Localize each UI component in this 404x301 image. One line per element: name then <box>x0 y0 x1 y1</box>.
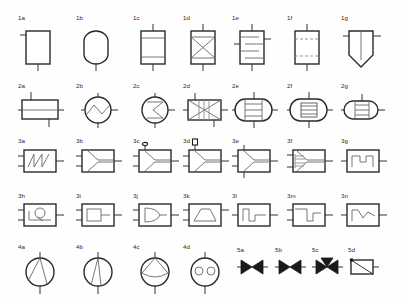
symbol-label-1b: 1b <box>76 14 83 21</box>
symbol-label-1d: 1d <box>183 14 190 21</box>
symbol-art-3k <box>183 200 233 234</box>
symbol-label-3j: 3j <box>133 192 138 199</box>
symbol-label-2a: 2a <box>18 82 25 89</box>
symbol-label-3k: 3k <box>183 192 190 199</box>
symbol-label-3n: 3n <box>341 192 348 199</box>
symbol-art-2f <box>287 90 337 132</box>
symbol-label-4a: 4a <box>18 243 25 250</box>
symbol-label-1a: 1a <box>18 14 25 21</box>
symbol-art-2a <box>18 90 68 132</box>
symbol-label-1g: 1g <box>341 14 348 21</box>
symbol-art-4c <box>133 251 183 299</box>
symbol-art-3l <box>232 200 282 234</box>
symbol-label-3a: 3a <box>18 137 25 144</box>
symbol-art-3i <box>76 200 126 234</box>
symbol-art-1c <box>133 22 179 72</box>
symbol-art-1e <box>232 22 278 72</box>
symbol-art-3m <box>287 200 337 234</box>
symbol-label-3b: 3b <box>76 137 83 144</box>
symbol-label-3d: 3d <box>183 137 190 144</box>
symbol-art-2g <box>341 90 391 132</box>
symbol-label-2f: 2f <box>287 82 292 89</box>
symbol-label-4c: 4c <box>133 243 140 250</box>
symbol-label-2e: 2e <box>232 82 239 89</box>
symbol-label-3h: 3h <box>18 192 25 199</box>
symbol-art-3c <box>133 145 183 181</box>
symbol-art-2b <box>76 90 126 132</box>
symbol-art-3b <box>76 145 126 181</box>
symbol-art-4a <box>18 251 68 299</box>
symbol-label-3i: 3i <box>76 192 81 199</box>
symbol-art-5d <box>348 254 384 280</box>
symbol-art-1b <box>76 22 122 72</box>
symbol-legend-sheet: 1a 1b 1c <box>0 0 404 301</box>
symbol-label-5b: 5b <box>275 246 282 253</box>
symbol-label-3g: 3g <box>341 137 348 144</box>
symbol-art-5b <box>275 254 307 280</box>
symbol-label-5a: 5a <box>237 246 244 253</box>
symbol-label-1f: 1f <box>287 14 292 21</box>
symbol-label-2d: 2d <box>183 82 190 89</box>
symbol-label-5c: 5c <box>312 246 319 253</box>
symbol-art-2d <box>183 90 233 132</box>
symbol-art-5c <box>312 254 344 280</box>
symbol-label-1e: 1e <box>232 14 239 21</box>
symbol-label-3m: 3m <box>287 192 296 199</box>
symbol-label-4d: 4d <box>183 243 190 250</box>
symbol-label-2b: 2b <box>76 82 83 89</box>
symbol-art-2e <box>232 90 282 132</box>
symbol-art-3n <box>341 200 391 234</box>
symbol-art-3d <box>183 145 233 181</box>
symbol-label-2g: 2g <box>341 82 348 89</box>
symbol-art-4d <box>183 251 233 299</box>
symbol-art-3g <box>341 145 391 181</box>
symbol-label-4b: 4b <box>76 243 83 250</box>
symbol-art-3a <box>18 145 68 181</box>
symbol-label-3f: 3f <box>287 137 292 144</box>
symbol-art-3h <box>18 200 68 234</box>
symbol-art-3e <box>232 145 282 181</box>
symbol-art-2c <box>133 90 183 132</box>
symbol-label-5d: 5d <box>348 246 355 253</box>
symbol-art-5a <box>237 254 269 280</box>
symbol-label-2c: 2c <box>133 82 140 89</box>
symbol-label-3c: 3c <box>133 137 140 144</box>
symbol-art-1d <box>183 22 229 72</box>
symbol-label-3l: 3l <box>232 192 237 199</box>
symbol-art-1a <box>18 22 64 72</box>
symbol-art-3f <box>287 145 337 181</box>
symbol-art-1g <box>341 22 387 72</box>
symbol-art-3j <box>133 200 183 234</box>
symbol-label-1c: 1c <box>133 14 140 21</box>
symbol-label-3e: 3e <box>232 137 239 144</box>
symbol-art-4b <box>76 251 126 299</box>
symbol-art-1f <box>287 22 333 72</box>
